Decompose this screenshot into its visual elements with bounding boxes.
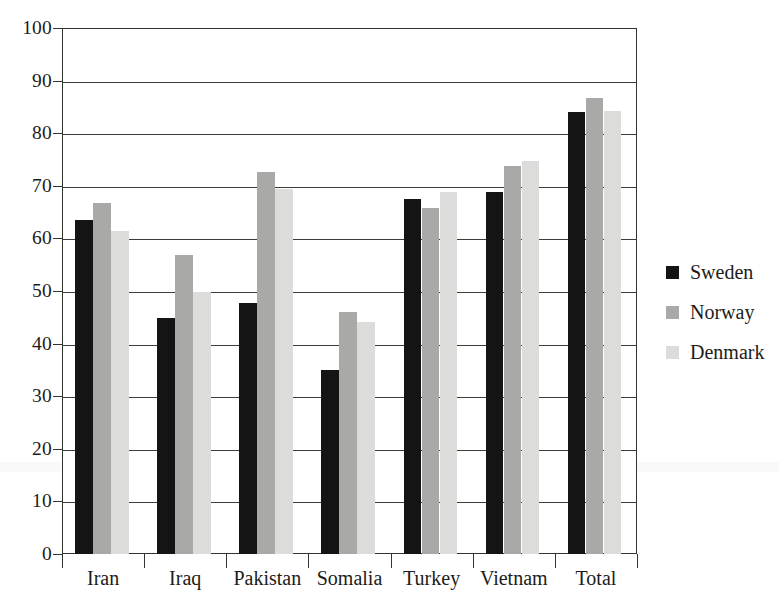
y-tick-label-60: 60 [10,228,52,248]
y-tick-label-0: 0 [10,544,52,564]
x-tick-label-pakistan: Pakistan [226,566,308,590]
y-tick-label-90: 90 [10,71,52,91]
legend-label-sweden: Sweden [690,262,753,282]
bar-somalia-sweden [321,370,339,554]
legend-item-norway: Norway [666,292,779,332]
y-tick-mark-100 [53,28,62,29]
grouped-bar-chart: 0102030405060708090100 IranIraqPakistanS… [0,0,779,611]
bar-iraq-norway [175,255,193,554]
y-tick-mark-90 [53,81,62,82]
bar-iran-norway [93,203,111,554]
legend-swatch-sweden [666,266,679,279]
bar-pakistan-sweden [239,303,257,554]
bar-total-norway [586,98,604,554]
bar-total-denmark [604,111,622,554]
bar-iran-denmark [111,231,129,554]
bar-somalia-norway [339,312,357,554]
x-tick-label-total: Total [555,566,637,590]
x-tick-mark-7 [637,554,638,568]
y-tick-label-50: 50 [10,281,52,301]
y-tick-mark-40 [53,344,62,345]
y-tick-mark-20 [53,449,62,450]
bar-iraq-sweden [157,318,175,554]
y-tick-label-30: 30 [10,386,52,406]
legend-swatch-norway [666,306,679,319]
legend-label-norway: Norway [690,302,754,322]
bar-vietnam-sweden [486,192,504,554]
x-tick-label-turkey: Turkey [391,566,473,590]
x-tick-label-somalia: Somalia [308,566,390,590]
bar-total-sweden [568,112,586,554]
legend-swatch-denmark [666,346,679,359]
chart-legend: SwedenNorwayDenmark [666,252,779,372]
y-tick-mark-50 [53,291,62,292]
y-tick-mark-0 [53,554,62,555]
bar-somalia-denmark [357,322,375,554]
x-tick-label-iraq: Iraq [144,566,226,590]
x-tick-label-iran: Iran [62,566,144,590]
bar-vietnam-norway [504,166,522,554]
y-tick-label-40: 40 [10,334,52,354]
bars-layer [62,28,637,554]
y-tick-label-80: 80 [10,123,52,143]
bar-turkey-sweden [404,199,422,554]
y-tick-label-100: 100 [10,18,52,38]
y-tick-mark-80 [53,133,62,134]
bar-turkey-denmark [440,192,458,554]
bar-iraq-denmark [193,292,211,554]
y-tick-label-20: 20 [10,439,52,459]
y-tick-label-70: 70 [10,176,52,196]
y-tick-mark-70 [53,186,62,187]
y-tick-label-10: 10 [10,491,52,511]
legend-item-denmark: Denmark [666,332,779,372]
y-tick-mark-10 [53,501,62,502]
bar-pakistan-norway [257,172,275,554]
legend-label-denmark: Denmark [690,342,764,362]
y-tick-mark-60 [53,238,62,239]
y-tick-mark-30 [53,396,62,397]
legend-item-sweden: Sweden [666,252,779,292]
bar-turkey-norway [422,208,440,554]
x-tick-label-vietnam: Vietnam [473,566,555,590]
bar-iran-sweden [75,220,93,554]
y-axis: 0102030405060708090100 [0,0,52,611]
bar-vietnam-denmark [522,161,540,554]
bar-pakistan-denmark [275,189,293,554]
